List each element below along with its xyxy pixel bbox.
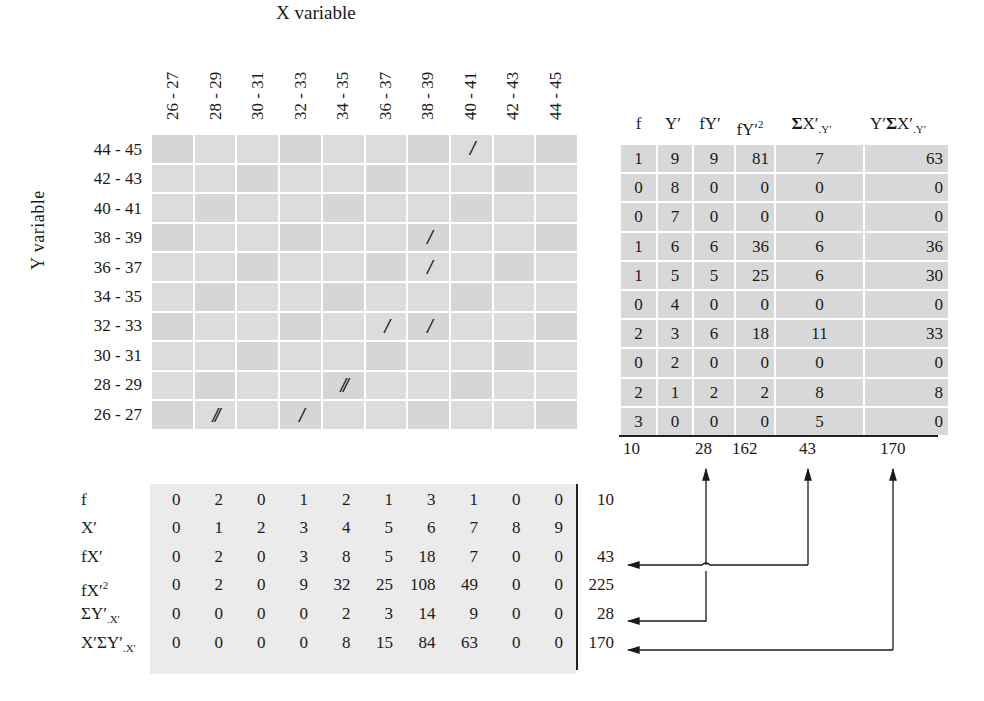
- cross-check-arrows: [0, 0, 984, 701]
- arrow-28-left: [628, 571, 706, 621]
- arrow-43-left: [628, 563, 808, 565]
